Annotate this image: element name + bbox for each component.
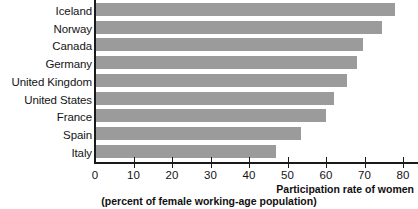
category-label: United States xyxy=(0,94,92,107)
bar-fill xyxy=(95,74,347,87)
bar xyxy=(95,145,276,158)
bar-fill xyxy=(95,127,301,140)
category-label: Iceland xyxy=(0,5,92,18)
bar xyxy=(95,109,326,122)
tick-label: 60 xyxy=(311,169,341,182)
bar-fill xyxy=(95,21,382,34)
tick-label: 30 xyxy=(196,169,226,182)
bar xyxy=(95,21,382,34)
y-axis-line xyxy=(94,0,96,164)
category-label: Italy xyxy=(0,147,92,160)
bar-chart-figure: IcelandNorwayCanadaGermanyUnited Kingdom… xyxy=(0,0,418,209)
bar xyxy=(95,92,334,105)
bar-fill xyxy=(95,145,276,158)
tick-label: 50 xyxy=(273,169,303,182)
bar xyxy=(95,74,347,87)
tick-mark xyxy=(365,157,366,168)
bar-fill xyxy=(95,38,363,51)
tick-mark xyxy=(172,157,173,168)
category-label: Spain xyxy=(0,129,92,142)
tick-mark xyxy=(134,157,135,168)
x-axis-caption-line-1: Participation rate of women xyxy=(0,183,418,195)
tick-label: 10 xyxy=(119,169,149,182)
x-axis-caption: Participation rate of women (percent of … xyxy=(0,183,418,207)
bar xyxy=(95,38,363,51)
category-axis-labels: IcelandNorwayCanadaGermanyUnited Kingdom… xyxy=(0,3,92,163)
bar-fill xyxy=(95,56,357,69)
tick-mark xyxy=(211,157,212,168)
tick-label: 40 xyxy=(234,169,264,182)
bar-fill xyxy=(95,109,326,122)
tick-mark xyxy=(326,157,327,168)
category-label: Norway xyxy=(0,23,92,36)
bar-fill xyxy=(95,92,334,105)
tick-label: 70 xyxy=(350,169,380,182)
tick-mark xyxy=(403,157,404,168)
tick-label: 0 xyxy=(80,169,110,182)
tick-label: 20 xyxy=(157,169,187,182)
tick-mark xyxy=(288,157,289,168)
tick-label: 80 xyxy=(388,169,418,182)
bar-fill xyxy=(95,3,395,16)
category-label: France xyxy=(0,111,92,124)
bar xyxy=(95,56,357,69)
bar xyxy=(95,127,301,140)
tick-mark xyxy=(249,157,250,168)
category-label: Germany xyxy=(0,58,92,71)
x-axis-line xyxy=(94,162,418,164)
bar xyxy=(95,3,395,16)
x-axis-caption-line-2: (percent of female working-age populatio… xyxy=(0,195,418,207)
category-label: United Kingdom xyxy=(0,76,92,89)
category-label: Canada xyxy=(0,40,92,53)
plot-area xyxy=(95,0,418,163)
